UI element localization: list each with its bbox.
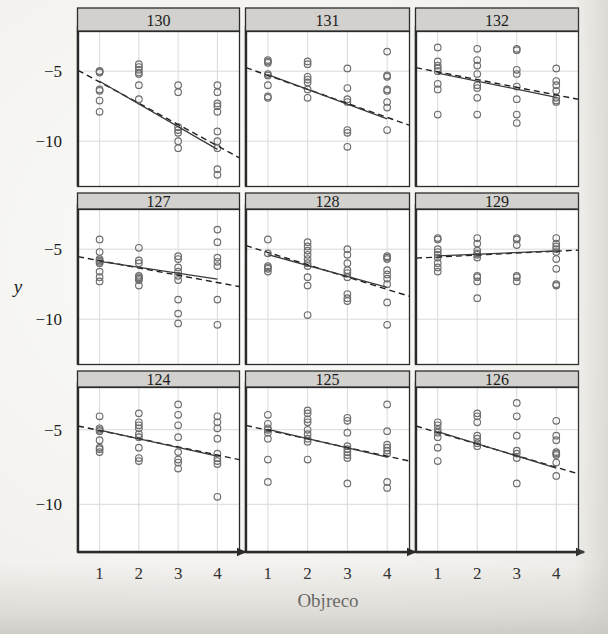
panel-strip-124: 124 xyxy=(78,371,240,388)
panel-strip-label-130: 130 xyxy=(147,12,171,29)
panel-130 xyxy=(78,32,239,186)
panel-128 xyxy=(246,210,409,364)
y-tick-label: −10 xyxy=(35,495,62,514)
panel-131 xyxy=(246,32,409,186)
x-tick-label: 4 xyxy=(552,564,561,583)
x-tick-label: 2 xyxy=(473,564,482,583)
panel-strip-label-127: 127 xyxy=(147,193,171,210)
panel-strip-128: 128 xyxy=(246,193,410,210)
panel-132 xyxy=(416,32,578,186)
panel-strip-127: 127 xyxy=(78,193,240,210)
x-tick-label: 2 xyxy=(135,564,144,583)
panel-strip-132: 132 xyxy=(416,8,579,31)
panel-background-126 xyxy=(416,388,578,552)
y-tick-label: −5 xyxy=(44,240,62,259)
panel-strip-label-125: 125 xyxy=(316,371,340,388)
y-tick-label: −5 xyxy=(44,62,62,81)
panel-129 xyxy=(416,210,578,364)
y-tick-label: −10 xyxy=(35,310,62,329)
panel-strip-131: 131 xyxy=(246,8,410,31)
panel-126 xyxy=(416,388,578,552)
panel-background-127 xyxy=(78,210,239,364)
panel-strip-129: 129 xyxy=(416,193,579,210)
panel-125 xyxy=(246,388,409,552)
panel-strip-126: 126 xyxy=(416,371,579,388)
y-axis-title: y xyxy=(12,276,23,297)
panel-strip-label-132: 132 xyxy=(485,12,509,29)
panel-background-132 xyxy=(416,32,578,186)
panel-strip-130: 130 xyxy=(78,8,240,31)
x-tick-label: 2 xyxy=(303,564,312,583)
x-tick-label: 3 xyxy=(174,564,183,583)
scanned-figure-page: 130131132127128129124125126−5−10−5−10−5−… xyxy=(0,0,608,634)
x-axis-title: Objreco xyxy=(297,590,358,611)
panel-127 xyxy=(78,210,239,364)
panel-strip-125: 125 xyxy=(246,371,410,388)
y-tick-label: −5 xyxy=(44,421,62,440)
x-tick-label: 1 xyxy=(433,564,442,583)
x-tick-label: 3 xyxy=(513,564,522,583)
panel-strip-label-128: 128 xyxy=(316,193,340,210)
panel-background-124 xyxy=(78,388,239,552)
trellis-plot: 130131132127128129124125126−5−10−5−10−5−… xyxy=(0,0,608,634)
panel-strip-label-131: 131 xyxy=(316,12,340,29)
x-tick-label: 1 xyxy=(95,564,104,583)
panel-strip-label-126: 126 xyxy=(485,371,509,388)
y-tick-label: −10 xyxy=(35,132,62,151)
x-tick-label: 4 xyxy=(213,564,222,583)
x-tick-label: 3 xyxy=(343,564,352,583)
panel-124 xyxy=(78,388,239,552)
panel-strip-label-124: 124 xyxy=(147,371,171,388)
panel-strip-label-129: 129 xyxy=(485,193,509,210)
x-tick-label: 4 xyxy=(383,564,392,583)
x-tick-label: 1 xyxy=(264,564,273,583)
